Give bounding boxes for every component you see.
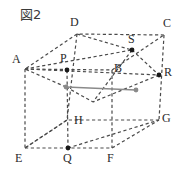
segment-left-mid (25, 69, 66, 87)
vertex-dot-q (66, 146, 71, 151)
vertex-dot-s (130, 48, 135, 53)
vertex-label-d: D (70, 16, 79, 28)
point-right-mid (134, 88, 139, 93)
point-left-mid (64, 85, 69, 90)
vertex-dot-r (157, 73, 162, 78)
vertex-label-p: P (60, 52, 67, 64)
edge-FG (112, 120, 159, 148)
vertex-label-a: A (12, 53, 21, 65)
vertex-label-f: F (107, 152, 114, 164)
dashed-edge-group (25, 34, 164, 148)
vertex-label-h: H (74, 114, 83, 126)
segment-E-H (25, 120, 67, 148)
vertex-label-r: R (164, 66, 172, 78)
cube-diagram-svg (0, 0, 186, 173)
vertex-label-c: C (163, 17, 171, 29)
edge-CD (77, 34, 164, 35)
vertex-dot-p (65, 68, 70, 73)
vertex-label-g: G (162, 112, 171, 124)
edge-DH (67, 34, 77, 120)
segment-DS (77, 34, 132, 50)
vertex-label-q: Q (63, 152, 72, 164)
edge-DA (25, 34, 77, 69)
vertex-label-b: B (114, 62, 122, 74)
figure-container: 図2 ABCDEFGHPQRS (0, 0, 186, 173)
vertex-label-s: S (128, 33, 135, 45)
segment-AR (25, 69, 159, 75)
vertex-label-e: E (15, 152, 22, 164)
